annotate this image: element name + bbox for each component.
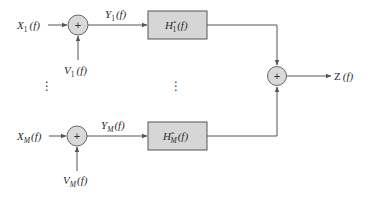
filter-block-m: H*M(f)	[148, 122, 207, 150]
filter-output-arrow-1	[207, 25, 277, 65]
input-label-x1: X1(f)	[16, 19, 40, 34]
svg-text:+: +	[274, 70, 280, 82]
ellipsis-middle: ⋮	[170, 79, 182, 93]
adder-junction-1: +	[68, 15, 88, 35]
filter-output-arrow-m	[207, 87, 277, 136]
noise-label-vm: VM(f)	[63, 174, 88, 189]
svg-text:+: +	[74, 130, 80, 142]
input-label-xm: XM(f)	[16, 130, 42, 145]
adder-junction-m: +	[67, 126, 87, 146]
intermediate-label-y1: Y1(f)	[105, 8, 127, 23]
ellipsis-left: ⋮	[41, 79, 53, 93]
noise-label-v1: V1(f)	[64, 64, 87, 79]
branch-m: XM(f) + VM(f) YM(f) H*M(f)	[16, 87, 277, 189]
svg-text:+: +	[75, 19, 81, 31]
intermediate-label-ym: YM(f)	[101, 119, 125, 134]
output-label-z: Z(f)	[334, 70, 353, 83]
branch-1: X1(f) + V1(f) Y1(f) H*1(f)	[16, 8, 277, 79]
filter-block-1: H*1(f)	[148, 11, 207, 39]
sum-junction: +	[268, 67, 287, 86]
block-diagram: X1(f) + V1(f) Y1(f) H*1(f) ⋮ ⋮ XM(f) +	[0, 0, 376, 198]
